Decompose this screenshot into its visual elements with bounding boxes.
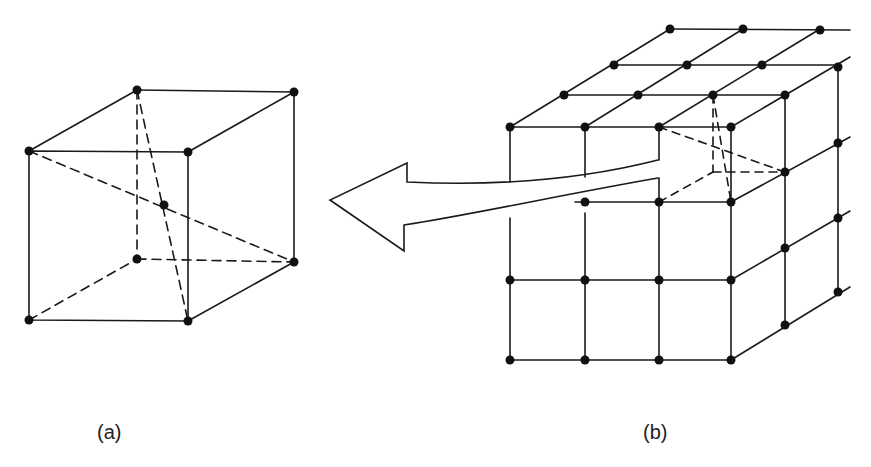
diagram-canvas — [0, 0, 871, 467]
grid-b — [510, 29, 850, 360]
extraction-arrow — [330, 160, 658, 251]
panel-a-label: (a) — [97, 421, 121, 444]
nodes — [25, 25, 843, 365]
panel-b-label: (b) — [643, 421, 667, 444]
